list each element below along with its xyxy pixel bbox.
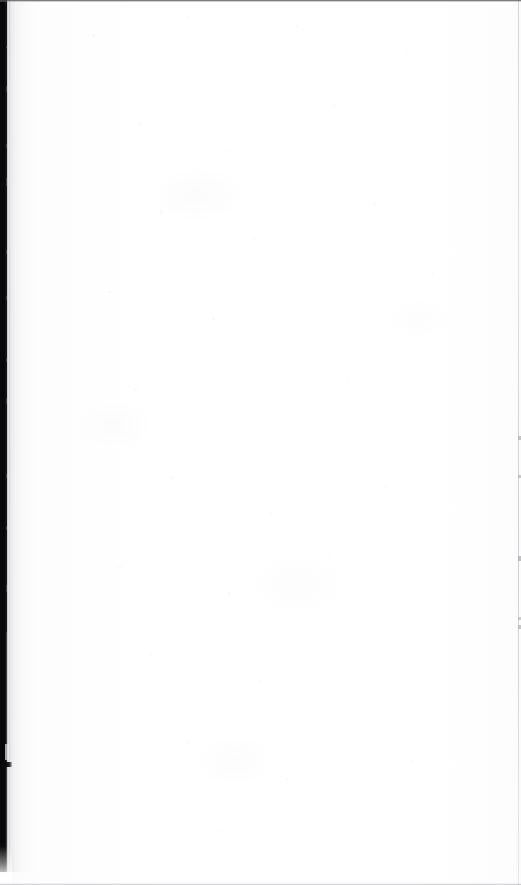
page-text-content bbox=[0, 0, 521, 885]
scanned-page-viewport[interactable] bbox=[0, 0, 521, 885]
